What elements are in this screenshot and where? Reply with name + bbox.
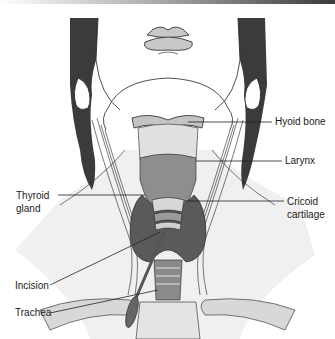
label-cricoid-line1: Cricoid	[287, 196, 318, 208]
label-thyroid-line1: Thyroid	[16, 190, 49, 202]
label-larynx: Larynx	[285, 155, 315, 167]
neck-anatomy-illustration	[0, 0, 335, 339]
label-trachea: Trachea	[15, 307, 51, 319]
trachea	[154, 260, 182, 300]
upper-lip	[147, 27, 189, 38]
label-incision: Incision	[15, 280, 49, 292]
lower-lip	[144, 37, 192, 50]
label-thyroid-line2: gland	[16, 203, 40, 215]
label-hyoid-bone: Hyoid bone	[275, 116, 326, 128]
cricoid-cartilage	[152, 198, 184, 213]
label-cricoid-line2: cartilage	[287, 209, 325, 221]
sternum	[136, 302, 200, 339]
